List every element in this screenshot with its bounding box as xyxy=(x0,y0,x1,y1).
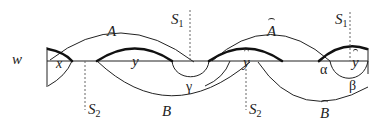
label-gamma: γ xyxy=(186,80,192,94)
label-S2-left-sub: 2 xyxy=(96,108,101,119)
label-S2-left: S2 xyxy=(88,102,101,119)
label-S2-left-main: S xyxy=(88,101,96,117)
arc-beta xyxy=(330,61,368,78)
label-w: w xyxy=(12,52,22,67)
label-S1-left-main: S xyxy=(171,11,179,27)
label-y: y xyxy=(132,54,139,69)
label-S1-right-main: S xyxy=(335,11,343,27)
label-S1-left: S1 xyxy=(171,12,184,29)
label-beta: β xyxy=(349,79,356,93)
label-S1-left-sub: 1 xyxy=(179,18,184,29)
thick-arc-y-hat-right xyxy=(319,46,367,61)
label-alpha: α xyxy=(320,63,327,77)
arc-gamma xyxy=(172,61,209,77)
label-y-hat-mid: y xyxy=(243,55,250,70)
label-S1-right: S1 xyxy=(335,12,348,29)
label-S2-right-sub: 2 xyxy=(257,108,262,119)
label-y-hat-right: y xyxy=(352,55,359,70)
arc-A xyxy=(50,33,194,62)
label-S2-right: S2 xyxy=(249,102,262,119)
label-S2-right-main: S xyxy=(249,101,257,117)
label-B-hat: B xyxy=(320,106,329,121)
label-A-hat: A xyxy=(267,24,276,39)
label-x: x xyxy=(56,57,62,71)
diagram-canvas: w x y y y A A B B S1 S1 S2 S2 α β γ xyxy=(0,0,379,129)
label-A: A xyxy=(107,24,116,39)
label-B: B xyxy=(162,104,171,119)
label-S1-right-sub: 1 xyxy=(343,18,348,29)
